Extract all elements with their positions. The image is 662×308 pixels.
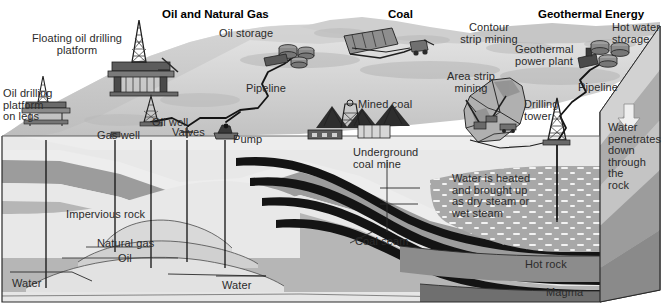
label-pump: Pump bbox=[233, 134, 262, 146]
label-pipeline-oil: Pipeline bbox=[246, 83, 286, 95]
label-water-left: Water bbox=[12, 278, 41, 290]
label-floating-oil-drilling-platform: Floating oil drilling platform bbox=[29, 33, 125, 56]
label-magma: Magma bbox=[546, 287, 583, 299]
label-oil: Oil bbox=[118, 253, 132, 265]
label-hot-rock: Hot rock bbox=[525, 259, 567, 271]
header-oil-and-natural-gas: Oil and Natural Gas bbox=[162, 8, 269, 20]
label-natural-gas: Natural gas bbox=[97, 238, 154, 250]
energy-resources-diagram: Oil and Natural Gas Coal Geothermal Ener… bbox=[0, 0, 662, 308]
label-water-right: Water bbox=[222, 280, 251, 292]
header-coal: Coal bbox=[388, 8, 413, 20]
label-geothermal-power-plant: Geothermal power plant bbox=[515, 44, 573, 67]
label-underground-coal-mine: Underground coal mine bbox=[353, 147, 418, 170]
label-contour-strip-mining: Contour strip mining bbox=[452, 22, 526, 45]
label-pipeline-geothermal: Pipeline bbox=[578, 82, 618, 94]
label-oil-storage: Oil storage bbox=[219, 28, 273, 40]
label-area-strip-mining: Area strip mining bbox=[442, 71, 500, 94]
label-mined-coal: Mined coal bbox=[358, 99, 412, 111]
label-oil-drilling-platform-on-legs: Oil drilling platform on legs bbox=[3, 88, 53, 123]
label-water-is-heated: Water is heated and brought up as dry st… bbox=[452, 173, 530, 219]
label-coal-seam: Coal seam bbox=[355, 236, 408, 248]
header-geothermal-energy: Geothermal Energy bbox=[538, 8, 644, 20]
label-hot-water-storage: Hot water storage bbox=[612, 22, 660, 45]
label-water-penetrates-down: Water penetrates down through the rock bbox=[608, 122, 661, 191]
label-drilling-tower: Drilling tower bbox=[524, 99, 558, 122]
label-valves: Valves bbox=[172, 127, 205, 139]
label-gas-well: Gas well bbox=[97, 130, 140, 142]
label-impervious-rock: Impervious rock bbox=[66, 209, 145, 221]
